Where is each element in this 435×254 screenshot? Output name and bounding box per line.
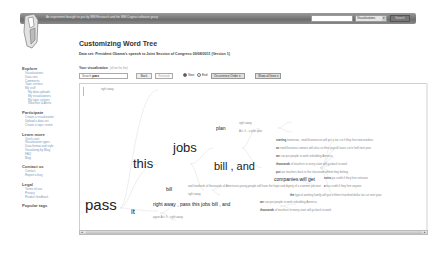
tree-node[interactable]: Act. It - a jobs plan	[239, 129, 262, 133]
sidebar-heading-learn-more: Learn more	[22, 132, 74, 137]
tree-leaf[interactable]: thousands of teachers in every state wil…	[260, 208, 331, 212]
order-select[interactable]: Occurrence Order ▾	[211, 73, 245, 79]
tree-node[interactable]: jobs	[173, 140, 197, 155]
logo-icon[interactable]	[22, 12, 40, 50]
radio-end[interactable]: End	[197, 73, 207, 79]
radio-unselected-icon	[197, 73, 201, 77]
tree-leaf[interactable]: a tax credit if they hire anyone	[324, 184, 361, 188]
sidebar-item-blog[interactable]: Blog	[22, 157, 74, 161]
tree-node[interactable]: right away	[239, 121, 252, 125]
tree-node[interactable]: right away , pass this jobs bill , and	[153, 201, 230, 207]
tree-node[interactable]: plan	[216, 125, 225, 131]
tree-root[interactable]: pass	[85, 196, 117, 213]
forward-button[interactable]: Forward	[155, 73, 173, 79]
tree-node[interactable]: right away	[101, 87, 114, 91]
sidebar-item-create-topic-center[interactable]: Create a topic center	[22, 124, 74, 128]
scroll-thumb[interactable]	[86, 231, 422, 234]
radio-selected-icon	[183, 73, 187, 77]
tree-leaf[interactable]: starting tomorrow , small businesses wil…	[276, 138, 373, 142]
tree-leaf[interactable]: we can put people to work rebuilding Ame…	[276, 154, 332, 158]
data-set-link[interactable]: Data set: President Obama's speech to Jo…	[79, 52, 230, 56]
tree-node[interactable]: again Act. It - right away	[153, 215, 183, 219]
viz-label: Your visualization(all text fits fine)	[79, 66, 128, 70]
scroll-right-icon[interactable]: ▸	[424, 230, 426, 234]
tree-leaf[interactable]: we can put people to work rebuilding Ame…	[260, 200, 316, 204]
tree-node[interactable]: this	[133, 156, 153, 171]
fit-select[interactable]: Show all lines ▾	[255, 73, 281, 79]
search-button[interactable]: Search	[390, 15, 410, 22]
search-scope-select[interactable]: Visualizations ▾	[355, 15, 387, 22]
word-search-input[interactable]: Search pass	[79, 73, 128, 79]
tree-leaf[interactable]: extra tax credit if they hire veterans	[324, 176, 368, 180]
sidebar: Explore Visualizations Data sets Comment…	[22, 62, 74, 209]
sidebar-item-report-bug[interactable]: Report a bug	[22, 174, 74, 178]
tree-leaf[interactable]: put our teachers back in the classroom w…	[276, 170, 348, 174]
chevron-down-icon: ▾	[382, 16, 386, 21]
page-title: Customizing Word Tree	[79, 40, 157, 47]
scroll-left-icon[interactable]: ◂	[81, 230, 83, 234]
tree-leaf[interactable]: thousands of teachers in every state wil…	[276, 162, 347, 166]
tree-node[interactable]: and hundreds of thousands of Americans y…	[188, 184, 321, 188]
sidebar-heading-popular-tags: Popular tags	[22, 203, 74, 208]
tagline: An experiment brought to you by IBM Rese…	[46, 15, 158, 19]
back-button[interactable]: Back	[136, 73, 152, 79]
viz-hint: (all text fits fine)	[110, 67, 128, 70]
vertical-scrollbar[interactable]	[426, 83, 428, 230]
horizontal-scrollbar[interactable]: ◂ ▸	[79, 230, 428, 235]
word-tree-controls: Search pass Back Forward Start End Occur…	[79, 72, 429, 81]
sidebar-item-watchlist[interactable]: Watchlist & Alerts	[22, 102, 74, 106]
sidebar-item-product-feedback[interactable]: Product feedback	[22, 196, 74, 200]
tree-node[interactable]: companies will get	[274, 176, 315, 182]
radio-start[interactable]: Start	[183, 73, 194, 79]
tree-node[interactable]: right away	[188, 192, 201, 196]
tree-node[interactable]: bill , and	[214, 160, 255, 172]
tree-leaf[interactable]: an small business owners will also cut t…	[276, 146, 371, 150]
site-search-input[interactable]	[311, 15, 353, 22]
tree-leaf[interactable]: the typical working family will get a fi…	[290, 193, 381, 197]
tree-node[interactable]: it	[131, 207, 135, 216]
word-tree-canvas[interactable]: right away pass this jobs plan right awa…	[79, 83, 428, 232]
tree-node[interactable]: bill	[166, 186, 172, 192]
